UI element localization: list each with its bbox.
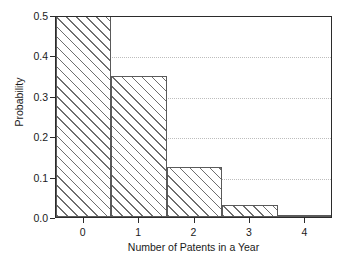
y-axis-tick-mark: [50, 137, 55, 138]
x-axis-tick-mark: [138, 218, 139, 223]
x-axis-tick-mark: [304, 218, 305, 223]
bar: [167, 167, 222, 218]
y-axis-tick-mark: [50, 97, 55, 98]
x-axis-tick-label: 4: [284, 226, 324, 238]
bar: [111, 76, 166, 217]
y-axis-tick-mark: [50, 178, 55, 179]
bar: [222, 205, 277, 217]
y-axis-tick-mark: [50, 16, 55, 17]
y-axis-title: Probability: [13, 52, 25, 152]
bar-series: [56, 17, 331, 217]
y-axis-tick-label: 0.5: [18, 11, 48, 21]
x-axis-tick-mark: [249, 218, 250, 223]
x-axis-tick-label: 0: [63, 226, 103, 238]
bar: [278, 215, 332, 218]
x-axis-tick-mark: [83, 218, 84, 223]
y-axis-tick-label: 0.0: [18, 213, 48, 223]
x-axis-tick-label: 3: [229, 226, 269, 238]
x-axis-tick-mark: [194, 218, 195, 223]
x-axis-tick-label: 1: [118, 226, 158, 238]
plot-area: [55, 16, 332, 218]
y-axis-tick-mark: [50, 56, 55, 57]
y-axis-tick-label: 0.1: [18, 173, 48, 183]
chart-figure: 0.00.10.20.30.40.5 Probability 01234 Num…: [0, 0, 355, 262]
bar: [56, 16, 111, 217]
x-axis-tick-label: 2: [174, 226, 214, 238]
x-axis-title: Number of Patents in a Year: [55, 241, 332, 253]
y-axis-tick-mark: [50, 218, 55, 219]
